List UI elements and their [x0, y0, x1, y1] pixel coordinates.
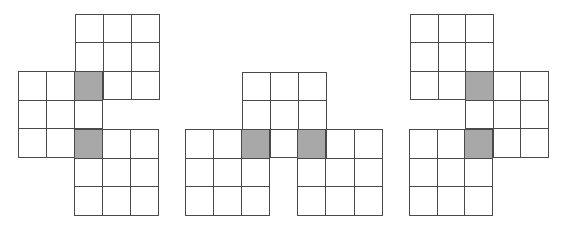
grid-cell: [47, 72, 75, 101]
grid-cell: [411, 43, 439, 71]
grid-cell: [131, 159, 159, 188]
grid-cell: [47, 129, 75, 158]
grid-cell: [75, 159, 103, 188]
grid-cell: [439, 72, 467, 100]
grid-cell: [214, 159, 242, 188]
grid-cell: [243, 101, 271, 129]
grid-cell: [242, 187, 270, 216]
grid-cell: [271, 130, 299, 158]
grid-cell: [355, 187, 383, 216]
grid-cell: [494, 101, 522, 130]
shaded-cell: [242, 130, 270, 159]
grid-cell: [466, 101, 494, 130]
grid-cell: [410, 159, 438, 188]
grid-cell: [466, 43, 494, 71]
grid-cell: [132, 72, 160, 100]
grid-cell: [103, 130, 131, 159]
grid-cell: [186, 187, 214, 216]
grid-cell: [521, 101, 549, 130]
grid-cell: [521, 72, 549, 101]
grid-cell: [438, 130, 466, 159]
grid-cell: [104, 72, 132, 100]
grid-cell: [299, 73, 327, 101]
grid-cell: [103, 159, 131, 188]
grid-cell: [47, 101, 75, 130]
grid-cell: [521, 129, 549, 158]
grid-cell: [19, 101, 47, 130]
grid-cell: [186, 159, 214, 188]
grid-cell: [411, 72, 439, 100]
grid-cell: [439, 43, 467, 71]
grid-cell: [299, 101, 327, 129]
grid-figures-canvas: [0, 0, 563, 228]
grid-cell: [131, 130, 159, 159]
grid-cell: [494, 72, 522, 101]
grid-cell: [411, 15, 439, 43]
shaded-cell: [75, 130, 103, 159]
grid-cell: [214, 130, 242, 159]
grid-cell: [439, 15, 467, 43]
right-block: [297, 129, 383, 216]
grid-cell: [271, 101, 299, 129]
grid-cell: [355, 130, 383, 159]
grid-cell: [132, 43, 160, 71]
bottom-block: [74, 129, 159, 216]
grid-cell: [103, 187, 131, 216]
grid-cell: [438, 159, 466, 188]
grid-cell: [104, 43, 132, 71]
grid-cell: [243, 73, 271, 101]
grid-cell: [326, 187, 354, 216]
grid-cell: [298, 187, 326, 216]
shaded-cell: [466, 72, 494, 101]
shaded-cell: [75, 72, 103, 101]
grid-cell: [355, 159, 383, 188]
grid-cell: [494, 129, 522, 158]
left-block: [185, 129, 270, 216]
shaded-cell: [298, 130, 326, 159]
grid-cell: [465, 159, 493, 188]
grid-cell: [75, 187, 103, 216]
grid-cell: [465, 187, 493, 216]
grid-cell: [104, 15, 132, 43]
grid-cell: [19, 129, 47, 158]
grid-cell: [298, 159, 326, 188]
grid-cell: [271, 73, 299, 101]
grid-cell: [19, 72, 47, 101]
grid-cell: [75, 101, 103, 130]
grid-cell: [186, 130, 214, 159]
grid-cell: [214, 187, 242, 216]
grid-cell: [326, 130, 354, 159]
grid-cell: [132, 15, 160, 43]
grid-cell: [326, 159, 354, 188]
grid-cell: [410, 187, 438, 216]
grid-cell: [410, 130, 438, 159]
grid-cell: [76, 43, 104, 71]
grid-cell: [466, 15, 494, 43]
grid-cell: [131, 187, 159, 216]
grid-cell: [242, 159, 270, 188]
grid-cell: [438, 187, 466, 216]
bottom-block: [409, 129, 493, 216]
grid-cell: [76, 15, 104, 43]
shaded-cell: [465, 130, 493, 159]
